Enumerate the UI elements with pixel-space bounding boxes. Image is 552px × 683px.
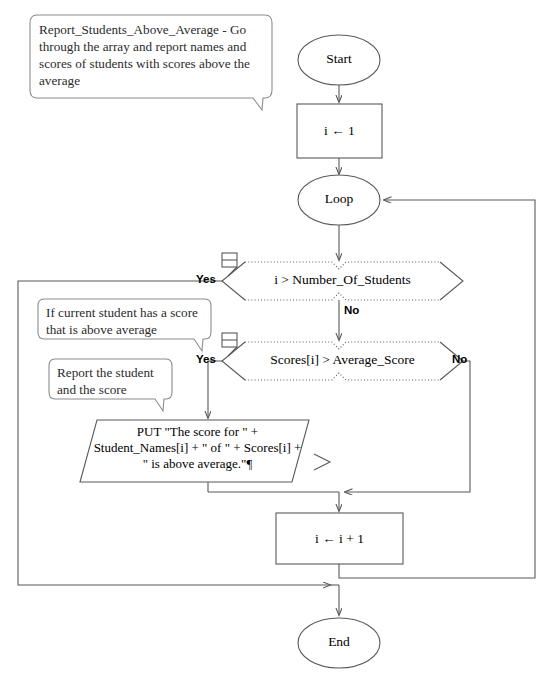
decision2-no-label: No	[452, 353, 467, 367]
decision1-left-edge	[222, 262, 245, 300]
comment-procedure-label: Report_Students_Above_Average - Go throu…	[39, 21, 267, 90]
decision1-bottom-edge	[245, 293, 440, 300]
connector-increment-loopback	[339, 200, 535, 578]
comment-condition-label: If current student has a score that is a…	[46, 304, 206, 338]
loop-label: Loop	[298, 191, 380, 207]
init-label: i ← 1	[297, 123, 382, 139]
decision2-label: Scores[i] > Average_Score	[245, 352, 440, 368]
output-label: PUT "The score for " + Student_Names[i] …	[90, 424, 305, 472]
start-label: Start	[298, 51, 380, 67]
decision2-note-icon-leader	[228, 347, 237, 356]
increment-label: i ← i + 1	[276, 531, 403, 547]
decision2-top-edge	[245, 342, 440, 349]
decision1-no-label: No	[344, 304, 359, 318]
decision1-top-edge	[245, 262, 440, 269]
flowchart-canvas: Start i ← 1 Loop i > Number_Of_Students …	[0, 0, 552, 683]
connector-decision2-no	[345, 361, 470, 492]
decision2-yes-label: Yes	[196, 353, 216, 367]
connector-decision2-yes	[208, 361, 222, 418]
output-marker-icon	[314, 454, 330, 470]
decision1-label: i > Number_Of_Students	[245, 272, 440, 288]
decision2-left-edge	[222, 342, 245, 380]
decision1-note-icon-leader	[228, 267, 237, 276]
decision2-bottom-edge	[245, 373, 440, 380]
decision1-yes-label: Yes	[196, 273, 216, 287]
comment-output-label: Report the student and the score	[57, 364, 169, 398]
flowchart-graphics	[0, 0, 552, 683]
end-label: End	[298, 634, 380, 650]
decision1-right-edge	[440, 262, 463, 300]
